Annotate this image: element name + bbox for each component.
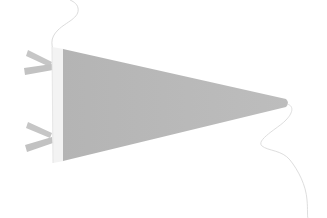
lower-tie xyxy=(25,122,53,152)
upper-tie xyxy=(24,50,53,75)
pennant-illustration xyxy=(0,0,327,218)
pennant-photo xyxy=(0,0,327,218)
pennant-band xyxy=(52,47,64,163)
pennant-felt xyxy=(63,49,288,161)
tip-string xyxy=(261,104,308,218)
